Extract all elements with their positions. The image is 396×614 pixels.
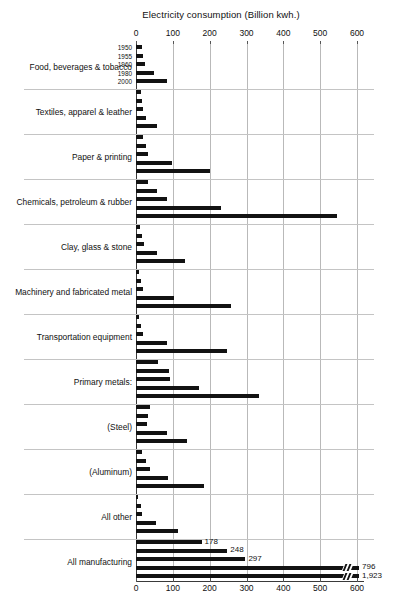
bar-1960 [136,557,245,561]
gridline-100 [173,44,174,581]
x-tick-label-400: 400 [276,28,290,38]
bar-1980 [136,386,199,390]
category-label-machinery: Machinery and fabricated metal [6,287,132,297]
x-axis-top: 0 100 200 300 400 500 600 [136,28,364,40]
bar-1960 [136,107,143,111]
x-tick-label-200: 200 [203,28,217,38]
category-label-clay: Clay, glass & stone [14,242,132,252]
bar-1955 [136,504,141,508]
bar-1950 [136,225,140,229]
category-label-textiles: Textiles, apparel & leather [14,107,132,117]
group-separator [24,179,374,180]
gridline-400 [283,44,284,581]
bar-1950 [136,315,139,319]
plot-area [136,44,364,581]
bar-1960 [136,242,144,246]
bar-value-label: 1,923 [362,572,382,580]
bar-1980 [136,431,167,435]
bar-1980 [136,206,221,210]
bar-1980 [136,161,172,165]
x-tickmarks-bottom [136,578,364,582]
bar-1950 [136,405,150,409]
x-tick-label-bottom-500: 500 [313,583,327,593]
bar-1950 [136,495,138,499]
chart-title: Electricity consumption (Billion kwh.) [0,9,396,20]
x-tick-label-bottom-400: 400 [276,583,290,593]
bar-1950 [136,135,143,139]
bar-1960 [136,62,145,66]
bar-1950 [136,450,142,454]
bar-1960 [136,287,143,291]
category-label-steel: (Steel) [14,422,132,432]
group-separator [24,359,374,360]
x-tick-label-100: 100 [166,28,180,38]
x-tick-label-bottom-600: 600 [350,583,364,593]
category-label-all-manufacturing: All manufacturing [14,557,132,567]
bar-1955 [136,369,169,373]
series-label-1955: 1955 [110,54,132,60]
group-separator [24,224,374,225]
bar-2000 [136,484,204,488]
bar-2000 [136,259,185,263]
bar-1960 [136,332,143,336]
category-label-chemicals: Chemicals, petroleum & rubber [6,197,132,207]
category-label-aluminum: (Aluminum) [14,467,132,477]
x-tick-label-bottom-0: 0 [134,583,139,593]
gridline-600 [357,44,358,581]
bar-2000 [136,79,167,83]
bar-1980 [136,71,154,75]
bar-2000 [136,394,259,398]
bar-1960 [136,467,150,471]
bar-value-label: 796 [362,563,375,571]
bar-1950 [136,180,148,184]
bar-1980 [136,251,157,255]
bar-2000 [136,124,157,128]
group-separator [24,404,374,405]
bar-1950 [136,540,202,544]
bar-1960 [136,152,148,156]
bar-value-label: 248 [230,546,243,554]
electricity-consumption-bar-chart: Electricity consumption (Billion kwh.) 0… [0,0,396,614]
bar-1960 [136,512,142,516]
bar-1950 [136,45,142,49]
group-separator [24,89,374,90]
gridline-300 [247,44,248,581]
x-tick-label-bottom-300: 300 [239,583,253,593]
series-label-2000: 2000 [110,79,132,85]
bar-1950 [136,360,158,364]
bar-1955 [136,189,157,193]
bar-value-label: 297 [248,555,261,563]
bar-1960 [136,197,167,201]
x-tick-label-300: 300 [239,28,253,38]
category-label-transportation: Transportation equipment [14,332,132,342]
category-label-all-other: All other [14,512,132,522]
series-label-1950: 1950 [110,45,132,51]
x-tick-label-bottom-100: 100 [166,583,180,593]
bar-1955 [136,549,227,553]
x-axis-bottom: 0 100 200 300 400 500 600 [136,583,364,595]
bar-2000 [136,214,337,218]
bar-1955 [136,324,141,328]
bar-1955 [136,279,141,283]
bar-1980 [136,476,168,480]
group-separator [24,134,374,135]
gridline-200 [210,44,211,581]
bar-value-label: 178 [205,538,218,546]
x-tick-label-bottom-200: 200 [203,583,217,593]
bar-1955 [136,459,146,463]
bar-1980 [136,341,167,345]
group-separator [24,449,374,450]
bar-1955 [136,99,142,103]
x-tick-label-500: 500 [313,28,327,38]
gridline-500 [320,44,321,581]
bar-1955 [136,234,142,238]
category-label-paper: Paper & printing [14,152,132,162]
x-tick-label-0: 0 [134,28,139,38]
bar-1980 [136,521,156,525]
x-tick-label-600: 600 [350,28,364,38]
bar-1955 [136,144,146,148]
bar-1980 [136,116,146,120]
bar-2000 [136,349,227,353]
category-label-primary-metals: Primary metals: [14,377,132,387]
bar-1960 [136,422,147,426]
